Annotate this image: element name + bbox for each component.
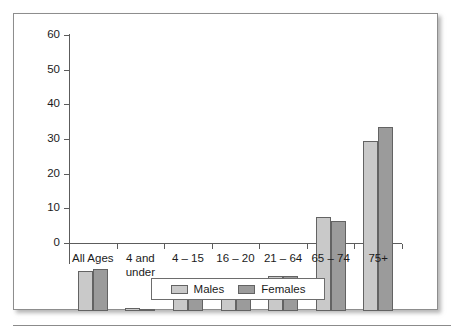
figure-frame: 0102030405060 All Ages4 andunder4 – 1516… — [13, 13, 438, 310]
bar-group — [78, 82, 108, 311]
y-axis-line — [69, 34, 70, 264]
y-axis-tick — [64, 139, 70, 140]
y-axis-tick-label: 0 — [28, 236, 60, 248]
y-axis-tick — [64, 174, 70, 175]
y-axis-tick — [64, 35, 70, 36]
bar-group — [221, 82, 251, 311]
x-axis-category-label: 75+ — [346, 252, 410, 266]
y-axis-tick-label: 60 — [28, 28, 60, 40]
legend-label: Males — [194, 283, 225, 295]
category-label-line: 75+ — [346, 252, 410, 266]
x-axis-tick — [212, 244, 213, 249]
bar-males — [363, 141, 378, 311]
bar-females — [331, 221, 346, 311]
bar-males — [125, 308, 140, 311]
bar-chart: 0102030405060 All Ages4 andunder4 – 1516… — [14, 14, 439, 311]
x-axis-tick — [402, 244, 403, 249]
category-label-line: under — [109, 266, 173, 280]
y-axis-tick — [64, 70, 70, 71]
x-axis-tick — [117, 244, 118, 249]
bar-females — [93, 269, 108, 311]
legend-entry-males: Males — [171, 283, 225, 295]
legend-entry-females: Females — [238, 283, 305, 295]
bar-group — [173, 82, 203, 311]
legend-swatch-icon — [238, 285, 255, 294]
y-axis-tick — [64, 104, 70, 105]
y-axis-tick-label: 30 — [28, 132, 60, 144]
bar-group — [268, 82, 298, 311]
x-axis-tick — [307, 244, 308, 249]
y-axis-tick — [64, 208, 70, 209]
y-axis-tick-label: 10 — [28, 201, 60, 213]
bar-females — [140, 309, 155, 311]
bar-group — [316, 82, 346, 311]
chart-legend: MalesFemales — [151, 278, 325, 300]
bar-group — [363, 82, 393, 311]
bottom-rule-divider — [13, 325, 451, 326]
x-axis-tick — [69, 244, 70, 249]
bar-males — [78, 271, 93, 311]
y-axis-tick-label: 20 — [28, 167, 60, 179]
legend-label: Females — [261, 283, 305, 295]
y-axis-tick-label: 50 — [28, 63, 60, 75]
x-axis-tick — [354, 244, 355, 249]
bar-females — [378, 127, 393, 311]
y-axis-tick-label: 40 — [28, 97, 60, 109]
x-axis-tick — [259, 244, 260, 249]
legend-swatch-icon — [171, 285, 188, 294]
bar-females — [188, 299, 203, 311]
x-axis-tick — [164, 244, 165, 249]
